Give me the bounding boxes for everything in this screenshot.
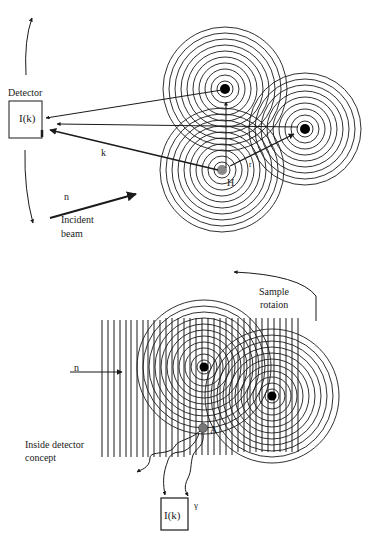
- n-label-bottom: n: [74, 362, 79, 373]
- sample-rotation-label-2: rotaion: [260, 299, 288, 310]
- ray-k-from-host: [50, 130, 218, 170]
- gamma-emission-paths: [137, 431, 203, 496]
- gamma-label: γ: [194, 500, 198, 511]
- k-label: k: [101, 147, 106, 158]
- sample-rotation-label-1: Sample: [259, 286, 289, 297]
- diagram-canvas: [0, 0, 374, 546]
- detector-rotation-arc-up: [26, 18, 32, 75]
- neighbor-atom-right: [300, 124, 310, 134]
- r-label: r: [249, 159, 252, 170]
- incident-beam-label-1: Incident: [61, 214, 94, 225]
- detector-box-label-top: I(k): [19, 113, 36, 124]
- neighbor-atom-top: [220, 84, 230, 94]
- plane-waves: [102, 318, 298, 457]
- scatterer-atom-2: [268, 392, 277, 401]
- scatterer-atom-1: [200, 363, 209, 372]
- detector-label: Detector: [8, 87, 42, 98]
- detector-rotation-arc-down: [25, 150, 33, 223]
- H-label: H: [227, 177, 234, 188]
- A-label: A: [210, 424, 217, 435]
- incident-beam-label-2: beam: [61, 228, 83, 239]
- n-label-top: n: [64, 191, 69, 202]
- inside-detector-label-2: concept: [25, 452, 56, 463]
- inside-detector-label-1: Inside detector: [25, 439, 84, 450]
- detector-box-label-bottom: I(k): [164, 510, 181, 521]
